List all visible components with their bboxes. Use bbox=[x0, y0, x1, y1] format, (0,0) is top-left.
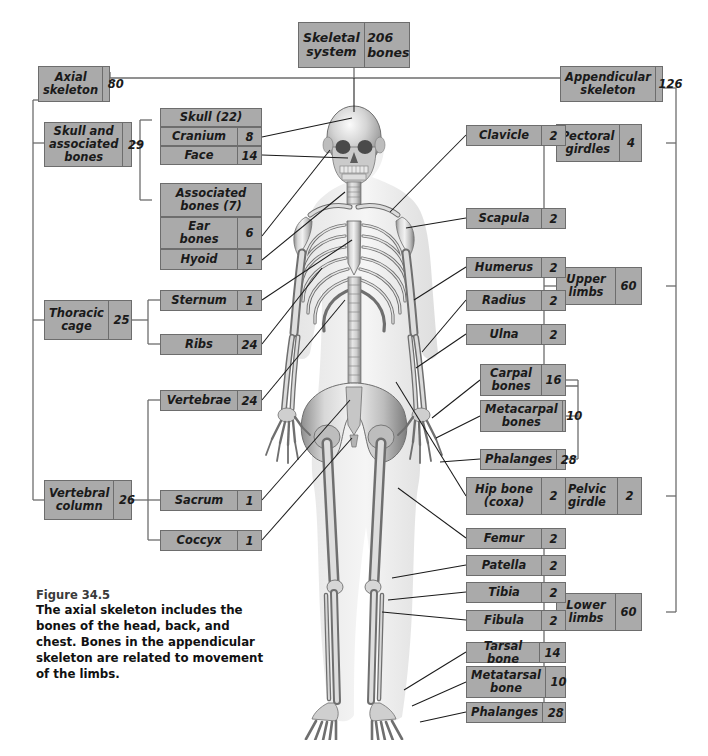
skeletal-system-box[interactable]: Skeletalsystem 206bones bbox=[298, 22, 410, 68]
skull-and-associated-bones-label: Skull andassociatedbones bbox=[45, 123, 122, 166]
sternum-value: 1 bbox=[237, 291, 261, 310]
scapula-value: 2 bbox=[541, 209, 565, 228]
skull-and-associated-bones-box[interactable]: Skull andassociatedbones 29 bbox=[44, 122, 132, 167]
femur-box[interactable]: Femur 2 bbox=[466, 528, 566, 549]
ear-bones-box[interactable]: Earbones 6 bbox=[160, 217, 262, 249]
ear-bones-value: 6 bbox=[237, 218, 261, 248]
thoracic-cage-box[interactable]: Thoraciccage 25 bbox=[44, 300, 132, 340]
skull-header-label: Skull (22) bbox=[161, 109, 261, 126]
appendicular-skeleton-label: Appendicularskeleton bbox=[561, 67, 655, 101]
tibia-label: Tibia bbox=[467, 583, 541, 602]
scapula-label: Scapula bbox=[467, 209, 541, 228]
femur-label: Femur bbox=[467, 529, 541, 548]
skull-header-box[interactable]: Skull (22) bbox=[160, 108, 262, 127]
tarsal-bone-box[interactable]: Tarsal bone 14 bbox=[466, 642, 566, 663]
radius-box[interactable]: Radius 2 bbox=[466, 290, 566, 311]
human-skeleton-illustration bbox=[232, 95, 477, 740]
ulna-label: Ulna bbox=[467, 325, 541, 344]
clavicle-box[interactable]: Clavicle 2 bbox=[466, 125, 566, 146]
ribs-value: 24 bbox=[237, 335, 261, 354]
face-label: Face bbox=[161, 147, 237, 164]
fibula-box[interactable]: Fibula 2 bbox=[466, 610, 566, 631]
vertebral-column-box[interactable]: Vertebralcolumn 26 bbox=[44, 480, 132, 520]
fibula-value: 2 bbox=[541, 611, 565, 630]
tibia-box[interactable]: Tibia 2 bbox=[466, 582, 566, 603]
face-value: 14 bbox=[237, 147, 261, 164]
hip-bone-label: Hip bone(coxa) bbox=[467, 478, 541, 514]
tarsal-bone-value: 14 bbox=[539, 643, 565, 662]
upper-limbs-value: 60 bbox=[615, 268, 641, 304]
skeletal-system-value: 206bones bbox=[364, 23, 412, 67]
coccyx-box[interactable]: Coccyx 1 bbox=[160, 530, 262, 551]
lower-limbs-box[interactable]: Lowerlimbs 60 bbox=[556, 593, 642, 631]
coccyx-label: Coccyx bbox=[161, 531, 237, 550]
scapula-box[interactable]: Scapula 2 bbox=[466, 208, 566, 229]
associated-bones-header-label: Associatedbones (7) bbox=[161, 184, 261, 216]
pectoral-girdles-box[interactable]: Pectoralgirdles 4 bbox=[556, 124, 642, 162]
carpal-bones-value: 16 bbox=[541, 365, 565, 395]
clavicle-value: 2 bbox=[541, 126, 565, 145]
humerus-box[interactable]: Humerus 2 bbox=[466, 257, 566, 278]
metatarsal-bone-label: Metatarsalbone bbox=[467, 667, 545, 697]
cranium-value: 8 bbox=[237, 128, 261, 145]
skull-and-associated-bones-value: 29 bbox=[122, 123, 148, 166]
sacrum-label: Sacrum bbox=[161, 491, 237, 510]
figure-number: Figure 34.5 bbox=[36, 588, 264, 602]
foot-phalanges-value: 28 bbox=[542, 703, 568, 722]
sacrum-box[interactable]: Sacrum 1 bbox=[160, 490, 262, 511]
ulna-box[interactable]: Ulna 2 bbox=[466, 324, 566, 345]
metatarsal-bone-box[interactable]: Metatarsalbone 10 bbox=[466, 666, 566, 698]
tibia-value: 2 bbox=[541, 583, 565, 602]
vertebral-column-value: 26 bbox=[113, 481, 139, 519]
vertebrae-value: 24 bbox=[237, 391, 261, 410]
hyoid-box[interactable]: Hyoid 1 bbox=[160, 249, 262, 270]
skeleton-svg bbox=[232, 95, 477, 740]
vertebral-column bbox=[348, 277, 361, 383]
metacarpal-bones-label: Metacarpalbones bbox=[481, 401, 562, 431]
vertebrae-box[interactable]: Vertebrae 24 bbox=[160, 390, 262, 411]
axial-skeleton-box[interactable]: Axialskeleton 80 bbox=[38, 66, 110, 102]
tarsal-bone-label: Tarsal bone bbox=[467, 643, 539, 662]
vertebral-column-label: Vertebralcolumn bbox=[45, 481, 113, 519]
appendicular-skeleton-box[interactable]: Appendicularskeleton 126 bbox=[560, 66, 663, 102]
femur-value: 2 bbox=[541, 529, 565, 548]
cranium-label: Cranium bbox=[161, 128, 237, 145]
figure-caption-text: The axial skeleton includes the bones of… bbox=[36, 603, 264, 683]
cervical-vertebrae bbox=[347, 182, 361, 204]
ribs-label: Ribs bbox=[161, 335, 237, 354]
patella-box[interactable]: Patella 2 bbox=[466, 555, 566, 576]
figure-caption: Figure 34.5 The axial skeleton includes … bbox=[36, 588, 264, 683]
carpal-bones-box[interactable]: Carpalbones 16 bbox=[480, 364, 566, 396]
pelvic-girdle-box[interactable]: Pelvicgirdle 2 bbox=[556, 477, 642, 515]
cranium-box[interactable]: Cranium 8 bbox=[160, 127, 262, 146]
face-box[interactable]: Face 14 bbox=[160, 146, 262, 165]
humerus-value: 2 bbox=[541, 258, 565, 277]
axial-skeleton-value: 80 bbox=[102, 67, 128, 101]
hand-phalanges-value: 28 bbox=[556, 450, 580, 469]
lower-limbs-value: 60 bbox=[615, 594, 641, 630]
sacrum-value: 1 bbox=[237, 491, 261, 510]
hip-bone-value: 2 bbox=[541, 478, 565, 514]
thoracic-cage-value: 25 bbox=[108, 301, 134, 339]
pelvic-girdle-label: Pelvicgirdle bbox=[557, 478, 617, 514]
sternum-box[interactable]: Sternum 1 bbox=[160, 290, 262, 311]
clavicle-label: Clavicle bbox=[467, 126, 541, 145]
hip-bone-box[interactable]: Hip bone(coxa) 2 bbox=[466, 477, 566, 515]
patella-label: Patella bbox=[467, 556, 541, 575]
associated-bones-header-box[interactable]: Associatedbones (7) bbox=[160, 183, 262, 217]
upper-limbs-box[interactable]: Upperlimbs 60 bbox=[556, 267, 642, 305]
patella-value: 2 bbox=[541, 556, 565, 575]
vertebrae-label: Vertebrae bbox=[161, 391, 237, 410]
metatarsal-bone-value: 10 bbox=[545, 667, 571, 697]
carpal-bones-label: Carpalbones bbox=[481, 365, 541, 395]
metacarpal-bones-box[interactable]: Metacarpalbones 10 bbox=[480, 400, 566, 432]
radius-label: Radius bbox=[467, 291, 541, 310]
hyoid-label: Hyoid bbox=[161, 250, 237, 269]
ribs-box[interactable]: Ribs 24 bbox=[160, 334, 262, 355]
ear-bones-label: Earbones bbox=[161, 218, 237, 248]
hand-phalanges-box[interactable]: Phalanges 28 bbox=[480, 449, 566, 470]
foot-phalanges-box[interactable]: Phalanges 28 bbox=[466, 702, 566, 723]
hand-phalanges-label: Phalanges bbox=[481, 450, 556, 469]
fibula-label: Fibula bbox=[467, 611, 541, 630]
thoracic-cage-label: Thoraciccage bbox=[45, 301, 108, 339]
